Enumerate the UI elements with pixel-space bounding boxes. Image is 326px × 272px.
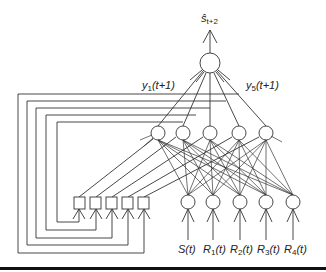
network-diagram — [0, 0, 326, 272]
input-label-s: S(t) — [178, 244, 196, 257]
hidden-label-last-tail: (t+1) — [256, 79, 279, 91]
input-label-tail: (t) — [296, 243, 306, 255]
context-unit — [74, 197, 85, 209]
input-to-hidden-connections — [140, 135, 293, 195]
hidden-layer — [151, 126, 273, 140]
output-label: ŝt+2 — [201, 13, 218, 26]
input-label-tail: (t) — [185, 243, 195, 255]
input-node — [206, 195, 220, 209]
output-label-sub: t+2 — [207, 17, 218, 26]
hidden-label-last: y5(t+1) — [246, 80, 279, 93]
context-arrowhead-icons — [73, 209, 150, 219]
input-node — [286, 195, 300, 209]
input-label-tail: (t) — [269, 243, 279, 255]
input-label-main: R — [203, 243, 211, 255]
input-label-r2: R2(t) — [230, 244, 253, 257]
context-unit — [106, 197, 117, 209]
input-label-main: R — [257, 243, 265, 255]
input-node — [259, 195, 273, 209]
input-label-r1: R1(t) — [203, 244, 226, 257]
context-unit — [138, 197, 149, 209]
input-layer — [181, 195, 300, 209]
hidden-label-first: y1(t+1) — [142, 80, 175, 93]
input-node — [181, 195, 195, 209]
hidden-node — [151, 126, 165, 140]
input-label-tail: (t) — [242, 243, 252, 255]
input-node — [233, 195, 247, 209]
hidden-node — [232, 126, 246, 140]
hidden-node — [259, 126, 273, 140]
context-to-hidden-connections — [79, 137, 259, 197]
output-node — [200, 53, 220, 73]
context-layer — [74, 197, 149, 209]
input-label-main: R — [284, 243, 292, 255]
input-arrow-icons — [182, 209, 299, 240]
hidden-node — [203, 126, 217, 140]
context-unit — [122, 197, 133, 209]
input-label-r4: R4(t) — [284, 244, 307, 257]
input-label-main: R — [230, 243, 238, 255]
bottom-rule — [0, 267, 326, 270]
input-label-r3: R3(t) — [257, 244, 280, 257]
context-unit — [90, 197, 101, 209]
feedback-loops — [18, 94, 239, 253]
input-label-tail: (t) — [215, 243, 225, 255]
hidden-node — [176, 126, 190, 140]
output-arrow-icon — [203, 30, 217, 53]
hidden-label-first-tail: (t+1) — [152, 79, 175, 91]
